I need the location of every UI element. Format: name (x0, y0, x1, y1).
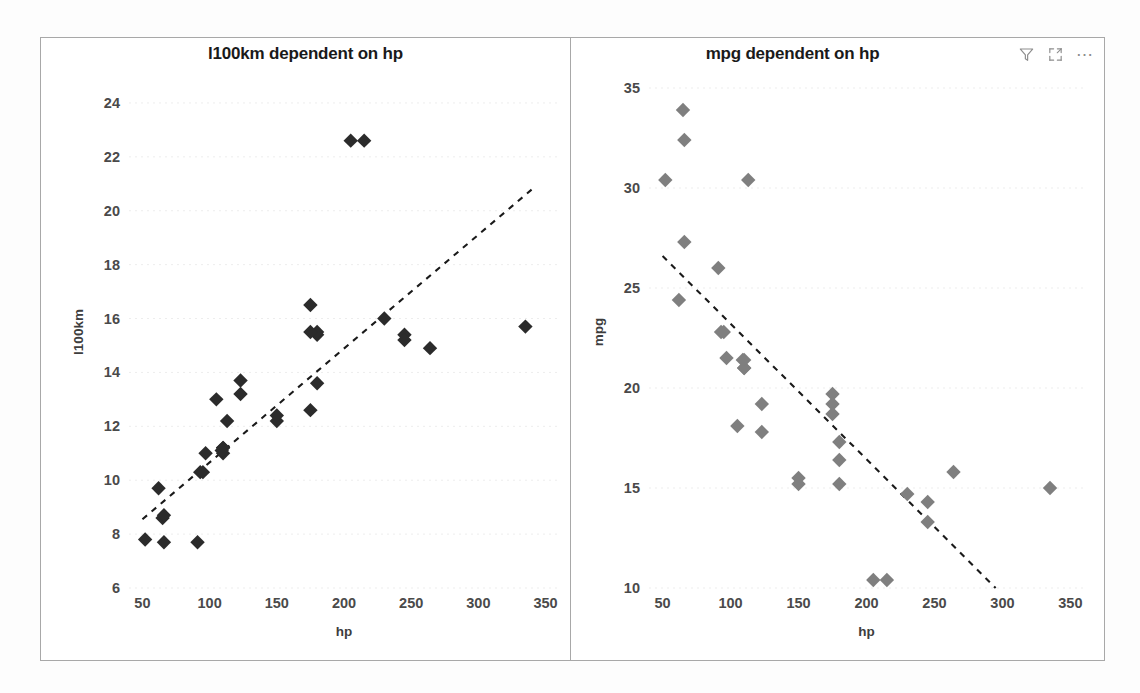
y-tick-label: 30 (624, 180, 640, 196)
data-points[interactable] (658, 103, 1057, 587)
data-point[interactable] (920, 495, 934, 509)
y-axis-title: l100km (71, 309, 86, 355)
y-axis-tick-labels: 101520253035 (624, 80, 640, 596)
x-tick-label: 350 (533, 595, 557, 611)
data-point[interactable] (755, 425, 769, 439)
data-point[interactable] (303, 403, 317, 417)
data-point[interactable] (138, 532, 152, 546)
x-tick-label: 100 (198, 595, 222, 611)
data-point[interactable] (711, 261, 725, 275)
x-tick-label: 200 (332, 595, 356, 611)
data-point[interactable] (755, 397, 769, 411)
data-point[interactable] (190, 535, 204, 549)
x-axis-title: hp (858, 624, 875, 639)
data-point[interactable] (658, 173, 672, 187)
data-points[interactable] (138, 133, 533, 549)
x-tick-label: 300 (990, 595, 1014, 611)
x-tick-label: 250 (399, 595, 423, 611)
y-tick-label: 25 (624, 280, 640, 296)
data-point[interactable] (233, 387, 247, 401)
data-point[interactable] (825, 387, 839, 401)
data-point[interactable] (730, 419, 744, 433)
y-tick-label: 8 (112, 526, 120, 542)
data-point[interactable] (518, 319, 532, 333)
data-point[interactable] (377, 311, 391, 325)
y-tick-label: 10 (624, 580, 640, 596)
data-point[interactable] (920, 515, 934, 529)
y-tick-label: 6 (112, 580, 120, 596)
data-point[interactable] (423, 341, 437, 355)
y-tick-label: 20 (624, 380, 640, 396)
data-point[interactable] (832, 477, 846, 491)
data-point[interactable] (900, 487, 914, 501)
data-point[interactable] (880, 573, 894, 587)
data-point[interactable] (233, 373, 247, 387)
y-axis-title: mpg (591, 318, 606, 347)
data-point[interactable] (303, 298, 317, 312)
data-point[interactable] (151, 481, 165, 495)
data-point[interactable] (719, 351, 733, 365)
y-tick-label: 20 (104, 203, 120, 219)
data-point[interactable] (196, 465, 210, 479)
x-tick-label: 150 (265, 595, 289, 611)
data-point[interactable] (357, 133, 371, 147)
visual-l100km-scatter[interactable]: l100km dependent on hp 68101214161820222… (40, 37, 570, 661)
y-tick-label: 18 (104, 257, 120, 273)
data-point[interactable] (672, 293, 686, 307)
data-point[interactable] (209, 392, 223, 406)
data-point[interactable] (676, 103, 690, 117)
x-tick-label: 50 (134, 595, 150, 611)
data-point[interactable] (717, 325, 731, 339)
data-point[interactable] (198, 446, 212, 460)
x-tick-label: 300 (466, 595, 490, 611)
report-canvas: l100km dependent on hp 68101214161820222… (0, 0, 1140, 693)
x-tick-label: 350 (1058, 595, 1082, 611)
data-point[interactable] (157, 535, 171, 549)
y-tick-label: 10 (104, 472, 120, 488)
data-point[interactable] (866, 573, 880, 587)
y-tick-label: 12 (104, 418, 120, 434)
y-tick-label: 35 (624, 80, 640, 96)
trendline (663, 256, 996, 588)
gridlines (129, 103, 559, 588)
y-tick-label: 14 (104, 364, 120, 380)
y-tick-label: 24 (104, 95, 120, 111)
data-point[interactable] (832, 453, 846, 467)
x-tick-label: 250 (922, 595, 946, 611)
x-axis-tick-labels: 50100150200250300350 (134, 595, 557, 611)
y-tick-label: 22 (104, 149, 120, 165)
y-tick-label: 16 (104, 311, 120, 327)
data-point[interactable] (741, 173, 755, 187)
y-axis-tick-labels: 681012141618202224 (104, 95, 120, 596)
data-point[interactable] (344, 133, 358, 147)
gridlines (649, 88, 1084, 588)
data-point[interactable] (946, 465, 960, 479)
data-point[interactable] (677, 235, 691, 249)
data-point[interactable] (1043, 481, 1057, 495)
scatter-plot-l100km: 68101214161820222450100150200250300350hp… (41, 38, 569, 660)
x-tick-label: 50 (655, 595, 671, 611)
data-point[interactable] (677, 133, 691, 147)
x-tick-label: 100 (718, 595, 742, 611)
plot-area: 10152025303550100150200250300350hpmpg (571, 38, 1104, 660)
scatter-plot-mpg: 10152025303550100150200250300350hpmpg (571, 38, 1104, 660)
visual-mpg-scatter[interactable]: mpg dependent on hp ⋯ 101520253035501001… (570, 37, 1105, 661)
x-tick-label: 200 (854, 595, 878, 611)
x-axis-title: hp (336, 624, 353, 639)
y-tick-label: 15 (624, 480, 640, 496)
data-point[interactable] (310, 376, 324, 390)
x-tick-label: 150 (786, 595, 810, 611)
plot-area: 68101214161820222450100150200250300350hp… (41, 38, 569, 660)
x-axis-tick-labels: 50100150200250300350 (655, 595, 1083, 611)
